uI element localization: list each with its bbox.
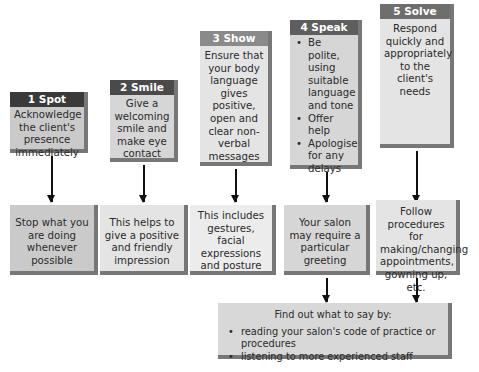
find-out-box: Find out what to say by: reading your sa…	[218, 303, 452, 359]
step-4-header: 4 Speak	[290, 20, 358, 35]
arrow-step-4	[326, 172, 328, 202]
step-3-result-box: This includes gestures, facial expressio…	[190, 205, 276, 275]
step-5-header: 5 Solve	[380, 4, 450, 19]
step-3-text: Ensure that your body language gives pos…	[200, 46, 268, 165]
step-1-header: 1 Spot	[10, 92, 84, 107]
step-2-box: 2 Smile Give a welcoming smile and make …	[110, 80, 178, 162]
step-4-bullet: Be polite, using suitable language and t…	[294, 37, 356, 113]
arrow-step-5-to-findout	[416, 278, 418, 302]
step-3-box: 3 Show Ensure that your body language gi…	[200, 31, 272, 166]
step-1-result-box: Stop what you are doing whenever possibl…	[10, 205, 98, 275]
step-1-text: Acknowledge the client's presence immedi…	[10, 107, 84, 161]
arrow-step-2	[143, 165, 145, 202]
step-4-bullets: Be polite, using suitable language and t…	[290, 35, 358, 178]
arrow-step-4-to-findout	[326, 278, 328, 302]
arrow-step-5	[416, 151, 418, 202]
step-4-result-box: Your salon may require a particular gree…	[284, 205, 370, 275]
step-4-box: 4 Speak Be polite, using suitable langua…	[290, 20, 362, 169]
step-2-header: 2 Smile	[110, 80, 174, 95]
find-out-title: Find out what to say by:	[218, 309, 448, 322]
step-2-text: Give a welcoming smile and make eye cont…	[110, 95, 174, 163]
arrow-step-3	[235, 169, 237, 202]
find-out-list: reading your salon's code of practice or…	[218, 326, 448, 364]
find-out-item: listening to more experienced staff	[226, 351, 448, 364]
step-3-result-text: This includes gestures, facial expressio…	[190, 205, 272, 275]
step-5-result-box: Follow procedures for making/changing ap…	[376, 200, 460, 275]
step-1-result-text: Stop what you are doing whenever possibl…	[10, 205, 94, 269]
step-3-header: 3 Show	[200, 31, 268, 46]
step-5-text: Respond quickly and appropriately to the…	[380, 19, 450, 101]
step-4-bullet: Apologise for any delays	[294, 138, 356, 176]
step-2-result-text: This helps to give a positive and friend…	[100, 205, 184, 269]
find-out-item: reading your salon's code of practice or…	[226, 326, 448, 351]
step-4-result-text: Your salon may require a particular gree…	[284, 205, 366, 269]
step-4-bullet: Offer help	[294, 113, 356, 138]
step-1-box: 1 Spot Acknowledge the client's presence…	[10, 92, 88, 153]
step-2-result-box: This helps to give a positive and friend…	[100, 205, 188, 275]
step-5-box: 5 Solve Respond quickly and appropriatel…	[380, 4, 454, 148]
arrow-step-1	[51, 156, 53, 202]
